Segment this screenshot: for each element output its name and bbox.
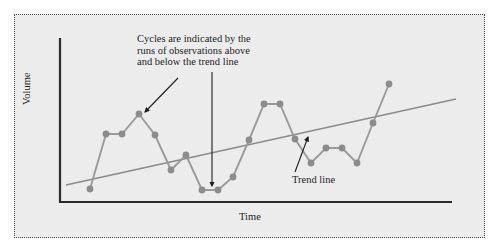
data-point [386, 81, 393, 88]
data-point [277, 101, 284, 108]
cycles-arrow-to-peak [145, 78, 178, 112]
cycles-line-1: Cycles are indicated by the [137, 33, 251, 44]
figure-container: Cycles are indicated by the runs of obse… [0, 0, 499, 252]
data-point [246, 137, 253, 144]
data-point [215, 187, 222, 194]
series-line [90, 84, 389, 190]
y-axis-label: Volume [21, 73, 33, 105]
cycles-line-3: and below the trend line [137, 56, 238, 67]
data-point [199, 187, 206, 194]
x-axis-label: Time [239, 211, 261, 223]
data-point [292, 136, 299, 143]
cycles-line-2: runs of observations above [137, 45, 250, 56]
data-point [136, 111, 143, 118]
data-point [354, 160, 361, 167]
trend-line-label: Trend line [292, 174, 335, 186]
data-point [370, 120, 377, 127]
data-point [168, 167, 175, 174]
data-point [230, 174, 237, 181]
data-point [308, 160, 315, 167]
data-point [261, 101, 268, 108]
series-markers [87, 81, 393, 194]
axes [59, 38, 452, 203]
data-point [183, 152, 190, 159]
data-point [119, 131, 126, 138]
data-point [103, 131, 110, 138]
data-point [87, 186, 94, 193]
data-point [339, 145, 346, 152]
data-point [323, 145, 330, 152]
data-point [152, 132, 159, 139]
cycles-annotation: Cycles are indicated by the runs of obse… [137, 33, 251, 68]
